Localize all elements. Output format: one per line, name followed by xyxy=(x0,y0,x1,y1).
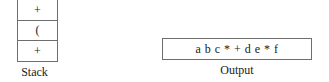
stack-cell-symbol: + xyxy=(34,4,41,16)
output-caption: Output xyxy=(162,60,312,76)
output-expression: a b c * + d e * f xyxy=(195,43,278,55)
stack-cell: + xyxy=(18,41,57,62)
output-figure: a b c * + d e * f Output xyxy=(162,38,312,76)
stack-cell-symbol: + xyxy=(34,45,41,57)
stack-cell-symbol: ( xyxy=(36,24,40,36)
stack-figure: + ( + Stack xyxy=(17,0,58,78)
stack-caption: Stack xyxy=(14,62,55,78)
output-box: a b c * + d e * f xyxy=(162,38,312,60)
stack-cell: ( xyxy=(18,21,57,42)
stack-cell: + xyxy=(18,0,57,21)
stack-container: + ( + xyxy=(17,0,58,62)
